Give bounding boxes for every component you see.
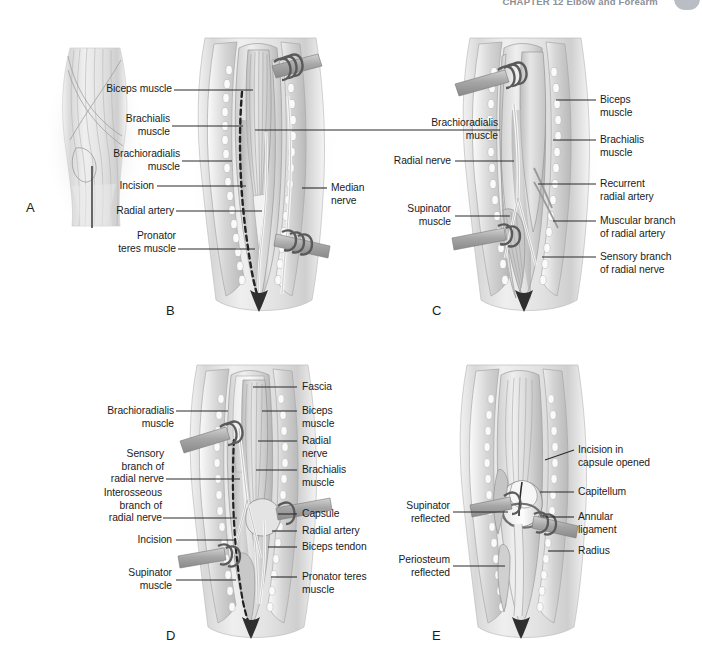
panel-b-illustration (185, 30, 341, 312)
label-d-radial-nerve: Radial nerve (302, 435, 382, 460)
label-c-biceps-muscle: Biceps muscle (600, 94, 690, 119)
figure-artwork (0, 0, 702, 659)
label-b-biceps-muscle: Biceps muscle (54, 83, 172, 96)
label-d-sensory-branch-radial-nerve: Sensory branch of radial nerve (62, 448, 164, 486)
label-e-incision-in-capsule-opened: Incision in capsule opened (578, 444, 684, 469)
label-e-radius: Radius (578, 545, 658, 558)
label-d-biceps-tendon: Biceps tendon (302, 541, 402, 554)
panel-letter-d: D (166, 628, 176, 643)
panel-letter-b: B (166, 303, 175, 318)
panel-letter-a: A (26, 200, 35, 215)
label-d-brachioradialis-muscle: Brachioradialis muscle (42, 405, 174, 430)
label-c-supinator-muscle: Supinator muscle (376, 203, 451, 228)
label-b-radial-artery: Radial artery (54, 205, 174, 218)
label-b-pronator-teres-muscle: Pronator teres muscle (52, 230, 176, 255)
label-d-brachialis-muscle: Brachialis muscle (302, 464, 388, 489)
label-e-capitellum: Capitellum (578, 486, 668, 499)
label-c-muscular-branch-radial-artery: Muscular branch of radial artery (600, 215, 702, 240)
label-c-radial-nerve: Radial nerve (373, 155, 451, 168)
label-e-supinator-reflected: Supinator reflected (366, 500, 450, 525)
panel-c-illustration (450, 30, 606, 312)
label-b-incision: Incision (64, 180, 154, 193)
label-d-fascia: Fascia (302, 381, 392, 394)
label-e-periosteum-reflected: Periosteum reflected (358, 554, 450, 579)
label-d-interosseous-branch-radial-nerve: Interosseous branch of radial nerve (52, 487, 162, 525)
label-c-brachialis-muscle: Brachialis muscle (600, 134, 690, 159)
panel-letter-e: E (432, 628, 441, 643)
label-e-annular-ligament: Annular ligament (578, 511, 666, 536)
label-b-brachialis-muscle: Brachialis muscle (54, 113, 170, 138)
panel-d-illustration (177, 355, 333, 639)
label-c-brachioradialis-muscle: Brachioradialis muscle (366, 117, 498, 142)
panel-letter-c: C (432, 303, 442, 318)
label-b-brachioradialis-muscle: Brachioradialis muscle (44, 148, 180, 173)
label-c-sensory-branch-radial-nerve: Sensory branch of radial nerve (600, 251, 702, 276)
label-d-biceps-muscle: Biceps muscle (302, 405, 382, 430)
figure-page: CHAPTER 12 Elbow and Forearm (0, 0, 702, 659)
label-c-recurrent-radial-artery: Recurrent radial artery (600, 178, 696, 203)
label-d-supinator-muscle: Supinator muscle (78, 567, 172, 592)
label-d-radial-artery: Radial artery (302, 525, 398, 538)
label-d-incision: Incision (84, 534, 172, 547)
